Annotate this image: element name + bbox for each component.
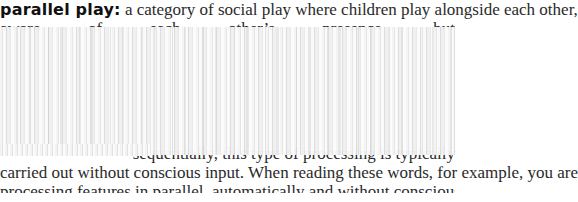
obscured-region-edge [0, 144, 150, 156]
body-text-line-5: processing features in parallel, automat… [0, 182, 455, 202]
obscured-region [0, 27, 455, 155]
body-text-line-4: carried out without conscious input. Whe… [0, 163, 455, 183]
glossary-entry-line-1: parallel play: a category of social play… [0, 0, 455, 20]
body-text-sentence: carried out without conscious input. Whe… [0, 163, 578, 182]
glossary-definition-part-1: a category of social play where children… [121, 0, 578, 19]
body-text-cutoff: processing features in parallel, automat… [0, 182, 577, 201]
glossary-term: parallel play: [0, 0, 121, 19]
